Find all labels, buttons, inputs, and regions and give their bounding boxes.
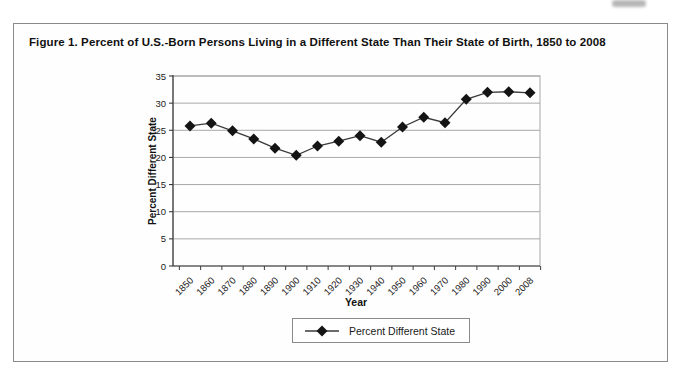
data-point-1900 <box>291 150 302 161</box>
y-tick-label: 5 <box>161 233 166 244</box>
x-tick-label: 1940 <box>364 275 387 298</box>
x-axis-title: Year <box>345 296 367 308</box>
x-tick-label: 1930 <box>343 275 366 298</box>
x-tick-label: 1850 <box>173 275 196 298</box>
x-tick-label: 1920 <box>321 275 344 298</box>
data-point-1920 <box>333 136 344 147</box>
x-tick-label: 1910 <box>300 275 323 298</box>
data-point-1880 <box>248 133 259 144</box>
data-point-1870 <box>227 125 238 136</box>
legend: Percent Different State <box>292 318 470 343</box>
page: { "figure": { "title": "Figure 1. Percen… <box>0 0 686 379</box>
data-point-1950 <box>397 122 408 133</box>
data-point-1910 <box>312 141 323 152</box>
x-tick-label: 2000 <box>491 275 514 298</box>
y-tick-label: 35 <box>155 71 166 82</box>
plot-border <box>173 76 540 266</box>
y-axis-title: Percent Different State <box>147 117 158 225</box>
x-tick-label: 1950 <box>385 275 408 298</box>
data-point-1860 <box>206 118 217 129</box>
legend-diamond-marker-icon <box>304 325 340 337</box>
data-point-1990 <box>482 87 493 98</box>
legend-label: Percent Different State <box>349 325 455 337</box>
data-point-1930 <box>355 130 366 141</box>
data-point-1890 <box>270 143 281 154</box>
y-tick-label: 30 <box>155 98 166 109</box>
data-point-2008 <box>525 87 536 98</box>
y-tick-label: 0 <box>161 261 166 272</box>
x-tick-label: 1990 <box>470 275 493 298</box>
x-tick-label: 1960 <box>406 275 429 298</box>
series-line <box>190 92 530 156</box>
x-tick-label: 1860 <box>194 275 217 298</box>
x-tick-label: 1890 <box>258 275 281 298</box>
x-tick-label: 2008 <box>513 275 536 298</box>
scan-artifact <box>612 0 646 7</box>
data-point-2000 <box>503 86 514 97</box>
x-tick-label: 1880 <box>236 275 259 298</box>
x-tick-label: 1900 <box>279 275 302 298</box>
x-tick-label: 1970 <box>428 275 451 298</box>
data-point-1940 <box>376 137 387 148</box>
data-point-1960 <box>418 112 429 123</box>
x-tick-label: 1870 <box>215 275 238 298</box>
x-tick-label: 1980 <box>449 275 472 298</box>
